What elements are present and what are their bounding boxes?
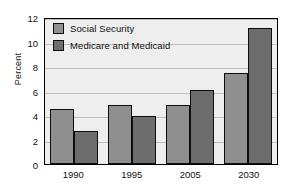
x-axis-tick-label: 2005	[180, 169, 201, 180]
legend-swatch-icon	[53, 40, 64, 51]
bar	[190, 90, 214, 164]
y-axis-tick-label: 6	[18, 86, 38, 97]
legend: Social SecurityMedicare and Medicaid	[53, 21, 170, 55]
y-axis-tick-label: 2	[18, 135, 38, 146]
bar	[166, 105, 190, 164]
bar	[108, 105, 132, 164]
y-axis-tick-labels: 024681012	[18, 0, 38, 193]
x-axis-tick-label: 2030	[238, 169, 259, 180]
legend-swatch-icon	[53, 23, 64, 34]
y-axis-tick-label: 8	[18, 62, 38, 73]
bar-group	[219, 19, 277, 164]
bar	[132, 116, 156, 164]
bar	[74, 131, 98, 164]
y-axis-tick-label: 0	[18, 160, 38, 171]
y-axis-tick-label: 10	[18, 37, 38, 48]
x-axis-tick-label: 1995	[121, 169, 142, 180]
legend-label: Medicare and Medicaid	[70, 40, 170, 51]
y-axis-tick-label: 4	[18, 111, 38, 122]
legend-label: Social Security	[70, 23, 134, 34]
bar-chart: Percent 024681012 1990199520052030 Socia…	[0, 0, 294, 193]
bar	[50, 109, 74, 164]
bar	[224, 73, 248, 164]
legend-item: Social Security	[53, 21, 170, 36]
bar	[248, 28, 272, 164]
y-axis-tick-label: 12	[18, 13, 38, 24]
x-axis-tick-label: 1990	[63, 169, 84, 180]
legend-item: Medicare and Medicaid	[53, 38, 170, 53]
